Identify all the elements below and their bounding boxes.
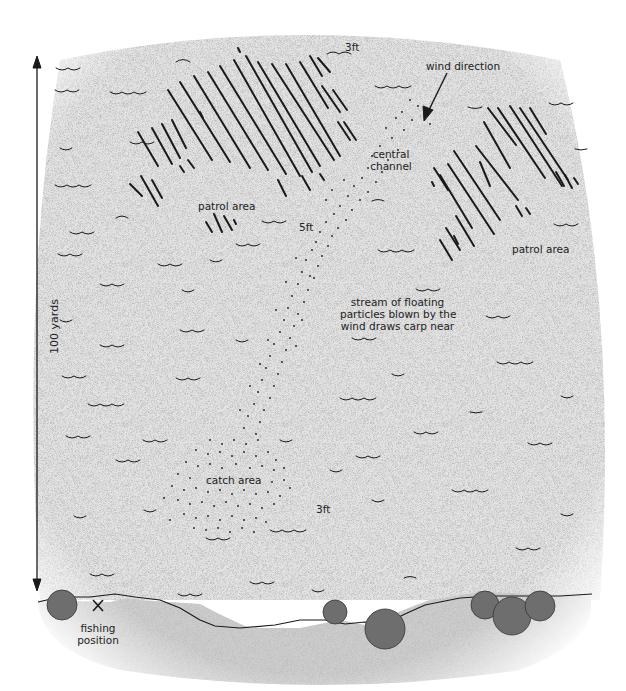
bush bbox=[365, 609, 405, 649]
arrow-up-icon bbox=[33, 56, 41, 68]
depth-label-bottom: 3ft bbox=[316, 503, 330, 515]
stream-description: stream of floating particles blown by th… bbox=[340, 296, 455, 332]
fishing-position-label: fishing position bbox=[73, 622, 123, 646]
scale-label: 100 yards bbox=[48, 299, 61, 354]
patrol-area-left-label: patrol area bbox=[198, 200, 255, 212]
wind-direction-label: wind direction bbox=[426, 60, 500, 72]
stream-line1: stream of floating bbox=[340, 296, 455, 308]
central-channel-line2: channel bbox=[366, 160, 416, 172]
fishing-position-line1: fishing bbox=[73, 622, 123, 634]
patrol-area-right-label: patrol area bbox=[512, 243, 569, 255]
depth-label-middle: 5ft bbox=[299, 221, 313, 233]
water-area bbox=[33, 35, 605, 685]
stream-line2: particles blown by the bbox=[340, 308, 455, 320]
depth-label-top: 3ft bbox=[345, 41, 359, 53]
central-channel-line1: central bbox=[366, 148, 416, 160]
lake-diagram bbox=[0, 0, 626, 691]
central-channel-label: central channel bbox=[366, 148, 416, 172]
bush bbox=[47, 590, 77, 620]
bush bbox=[525, 591, 555, 621]
stream-line3: wind draws carp near bbox=[340, 320, 455, 332]
fishing-position-line2: position bbox=[73, 634, 123, 646]
bush bbox=[323, 600, 347, 624]
catch-area-label: catch area bbox=[206, 474, 262, 486]
